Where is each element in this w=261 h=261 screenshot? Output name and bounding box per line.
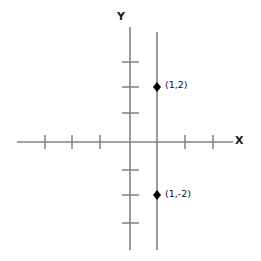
data-point-marker [153, 82, 161, 92]
data-point-label: (1,2) [165, 80, 188, 90]
data-point-marker [153, 190, 161, 200]
data-point-label: (1,-2) [165, 189, 191, 199]
y-axis-label: Y [117, 11, 125, 22]
plot-canvas [0, 0, 261, 261]
coordinate-plane-figure: Y X (1,2) (1,-2) [0, 0, 261, 261]
x-axis-label: X [235, 135, 243, 146]
